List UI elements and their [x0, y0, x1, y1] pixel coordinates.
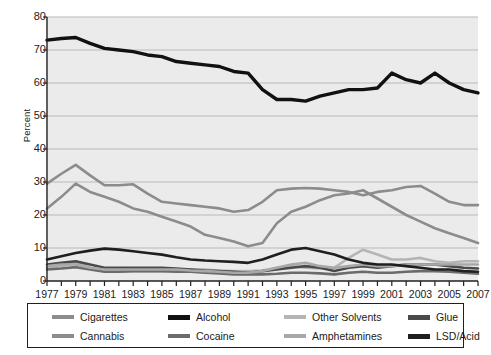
x-tick-label: 2005: [433, 289, 465, 300]
x-tick-label: 1987: [175, 289, 207, 300]
legend-label: Cannabis: [80, 330, 124, 342]
x-tick-label: 2003: [405, 289, 437, 300]
legend-swatch: [284, 315, 306, 319]
legend-swatch: [52, 315, 74, 319]
x-tick-label: 1977: [31, 289, 63, 300]
x-tick-label: 1993: [261, 289, 293, 300]
legend-swatch: [168, 334, 190, 338]
x-tick-label: 1999: [347, 289, 379, 300]
chart-legend: CigarettesAlcoholOther SolventsGlueCanna…: [27, 303, 464, 348]
legend-item-glue[interactable]: Glue: [408, 311, 458, 323]
x-tick-label: 2001: [376, 289, 408, 300]
legend-swatch: [408, 334, 430, 339]
legend-label: Cigarettes: [80, 311, 128, 323]
legend-label: Amphetamines: [312, 330, 382, 342]
x-tick-label: 1995: [290, 289, 322, 300]
y-tick-label: 40: [20, 143, 46, 154]
y-axis-tick-labels: 01020304050607080: [0, 0, 46, 355]
x-tick-label: 1989: [203, 289, 235, 300]
x-tick-label: 1981: [88, 289, 120, 300]
legend-item-cannabis[interactable]: Cannabis: [52, 330, 124, 342]
legend-swatch: [52, 334, 74, 338]
x-tick-label: 1985: [146, 289, 178, 300]
y-tick-label: 0: [20, 275, 46, 286]
x-tick-label: 1983: [117, 289, 149, 300]
y-tick-label: 60: [20, 77, 46, 88]
y-tick-label: 50: [20, 110, 46, 121]
line-chart-plot-area: [0, 0, 491, 355]
x-tick-label: 1997: [318, 289, 350, 300]
legend-swatch: [168, 315, 190, 320]
legend-swatch: [284, 334, 306, 338]
x-tick-label: 2007: [462, 289, 491, 300]
legend-label: LSD/Acid: [436, 330, 480, 342]
legend-item-lsd-acid[interactable]: LSD/Acid: [408, 330, 480, 342]
chart-figure: Percent 01020304050607080 19771979198119…: [0, 0, 491, 355]
legend-item-amphetamines[interactable]: Amphetamines: [284, 330, 382, 342]
y-tick-label: 20: [20, 209, 46, 220]
y-tick-label: 30: [20, 176, 46, 187]
y-tick-label: 10: [20, 242, 46, 253]
legend-item-cocaine[interactable]: Cocaine: [168, 330, 235, 342]
x-tick-label: 1979: [60, 289, 92, 300]
legend-item-alcohol[interactable]: Alcohol: [168, 311, 230, 323]
legend-label: Glue: [436, 311, 458, 323]
legend-item-other-solvents[interactable]: Other Solvents: [284, 311, 381, 323]
legend-item-cigarettes[interactable]: Cigarettes: [52, 311, 128, 323]
y-tick-label: 70: [20, 44, 46, 55]
legend-swatch: [408, 315, 430, 320]
legend-label: Alcohol: [196, 311, 230, 323]
x-tick-label: 1991: [232, 289, 264, 300]
legend-label: Other Solvents: [312, 311, 381, 323]
legend-label: Cocaine: [196, 330, 235, 342]
y-tick-label: 80: [20, 11, 46, 22]
